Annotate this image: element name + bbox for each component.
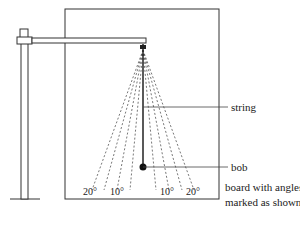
angle-label-left-20: 20°	[83, 186, 97, 197]
board-label-line2: marked as shown	[225, 196, 300, 208]
arm	[32, 38, 146, 43]
bob-label: bob	[231, 161, 248, 173]
angle-label-right-10: 10°	[160, 186, 174, 197]
string-label: string	[231, 101, 256, 113]
angle-label-left-10: 10°	[110, 186, 124, 197]
stand	[10, 29, 40, 199]
angle-label-right-20: 20°	[186, 186, 200, 197]
board-label-line1: board with angles	[225, 181, 300, 193]
